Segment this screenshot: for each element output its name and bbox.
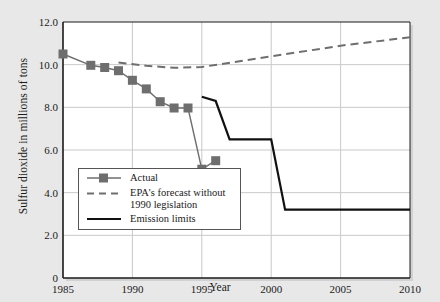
- plot-canvas: [0, 0, 440, 302]
- y-tick-12: 12.0: [18, 16, 58, 28]
- data-point-marker: [128, 76, 137, 85]
- y-tick-10: 10.0: [18, 59, 58, 71]
- x-tick-2000: 2000: [241, 283, 301, 295]
- data-point-marker: [184, 104, 193, 113]
- x-tick-1985: 1985: [33, 283, 93, 295]
- legend-actual-square-icon: [99, 174, 108, 183]
- y-tick-2: 2.0: [18, 229, 58, 241]
- data-point-marker: [142, 84, 151, 93]
- chart-legend: Actual EPA's forecast without 1990 legis…: [78, 168, 241, 230]
- x-tick-1990: 1990: [102, 283, 162, 295]
- data-point-marker: [114, 66, 123, 75]
- y-tick-6: 6.0: [18, 144, 58, 156]
- y-tick-8: 8.0: [18, 101, 58, 113]
- chart-figure: Sulfur dioxide in millions of tons Year: [0, 0, 440, 302]
- data-point-marker: [211, 156, 220, 165]
- data-point-marker: [59, 50, 68, 59]
- data-point-marker: [86, 61, 95, 70]
- x-tick-1995: 1995: [172, 283, 232, 295]
- legend-label-forecast: EPA's forecast without: [130, 187, 225, 198]
- x-tick-2010: 2010: [380, 283, 440, 295]
- y-tick-4: 4.0: [18, 187, 58, 199]
- data-point-marker: [156, 97, 165, 106]
- data-point-marker: [100, 63, 109, 72]
- x-tick-2005: 2005: [311, 283, 371, 295]
- data-point-marker: [170, 104, 179, 113]
- legend-label-limits: Emission limits: [130, 213, 196, 224]
- legend-label-forecast-cont: 1990 legislation: [130, 199, 197, 210]
- legend-label-actual: Actual: [130, 172, 158, 183]
